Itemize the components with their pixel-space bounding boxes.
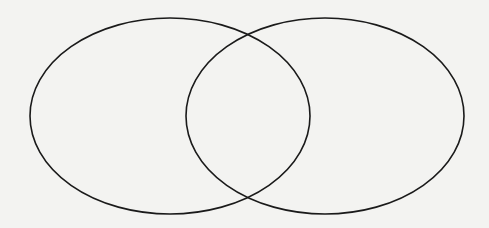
right-set-ellipse: [186, 18, 464, 214]
venn-svg: [0, 0, 489, 228]
venn-diagram: [0, 0, 489, 228]
left-set-ellipse: [30, 18, 310, 214]
